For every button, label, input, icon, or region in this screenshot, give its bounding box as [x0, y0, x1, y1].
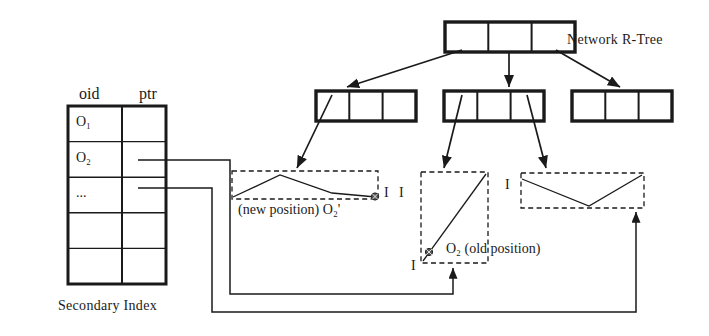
arrow-root-to-right: [556, 50, 620, 87]
road-polyline-right: [522, 175, 642, 206]
root-node[interactable]: [445, 22, 575, 52]
internal-node-right-box: [572, 91, 672, 121]
object-marker-new-position: [371, 193, 378, 200]
leaf-region-right[interactable]: [521, 173, 644, 208]
network-rtree-label: Network R-Tree: [567, 33, 663, 47]
interval-label-mid-top: I: [399, 186, 404, 200]
interval-label-right: I: [505, 178, 510, 192]
table-header-oid: oid: [79, 86, 99, 102]
interval-label-mid-bottom: I: [411, 259, 416, 273]
arrow-root-to-left: [347, 50, 462, 87]
secondary-index-label: Secondary Index: [58, 299, 157, 313]
table-cell-oid[interactable]: O₂: [76, 150, 91, 166]
interval-label-left: I: [384, 186, 389, 200]
object-marker-old-position: [425, 248, 432, 255]
internal-node-right[interactable]: [572, 91, 672, 121]
old-position-label: O₂ (old position): [446, 242, 540, 256]
table-cell-oid[interactable]: O₁: [76, 114, 91, 130]
root-node-box: [445, 22, 575, 52]
table-header-ptr: ptr: [139, 86, 157, 102]
new-position-label: (new position) O₂': [238, 203, 340, 217]
road-polyline-new-position: [233, 175, 376, 197]
table-cell-oid[interactable]: ...: [76, 185, 87, 201]
leaf-region-new-position[interactable]: [232, 171, 379, 200]
diagram-canvas: [0, 0, 709, 336]
